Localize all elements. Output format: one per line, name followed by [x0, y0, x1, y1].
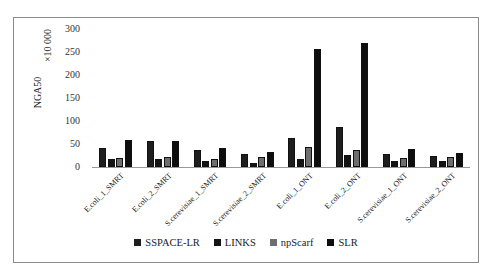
bar-sspace-lr-e-coli-1-smrt	[99, 148, 106, 167]
bar-npscarf-s-cerevisiae-2-smrt	[258, 157, 265, 167]
bar-slr-s-cerevisiae-2-smrt	[267, 152, 274, 167]
bar-slr-s-cerevisiae-2-ont	[456, 153, 463, 167]
bar-npscarf-s-cerevisiae-1-ont	[400, 158, 407, 167]
legend-item-npscarf: npScarf	[270, 237, 314, 248]
bar-npscarf-e-coli-2-smrt	[164, 157, 171, 167]
bar-sspace-lr-e-coli-2-ont	[336, 127, 343, 167]
y-tick-label: 0	[50, 162, 80, 172]
bar-links-s-cerevisiae-1-smrt	[202, 161, 209, 167]
y-axis-label: NGA50	[32, 77, 43, 109]
x-axis-line	[92, 167, 470, 168]
legend-swatch-icon	[134, 239, 141, 246]
bar-links-e-coli-1-ont	[297, 159, 304, 167]
y-tick-label: 250	[50, 47, 80, 57]
y-tick-label: 150	[50, 93, 80, 103]
y-axis-unit: ×10 000	[42, 29, 53, 62]
bar-slr-e-coli-1-ont	[314, 49, 321, 167]
y-tick-label: 50	[50, 139, 80, 149]
legend-label: npScarf	[281, 237, 314, 248]
bar-npscarf-e-coli-2-ont	[353, 150, 360, 167]
y-tick-label: 200	[50, 70, 80, 80]
bar-links-s-cerevisiae-2-ont	[439, 161, 446, 167]
legend-label: SLR	[338, 237, 357, 248]
bar-slr-e-coli-1-smrt	[125, 140, 132, 167]
bar-slr-s-cerevisiae-1-smrt	[219, 148, 226, 167]
bar-sspace-lr-s-cerevisiae-2-smrt	[241, 154, 248, 167]
legend-label: LINKS	[225, 237, 256, 248]
bar-npscarf-s-cerevisiae-1-smrt	[211, 159, 218, 167]
bar-sspace-lr-s-cerevisiae-1-smrt	[194, 150, 201, 167]
legend: SSPACE-LRLINKSnpScarfSLR	[0, 237, 492, 248]
bar-links-e-coli-2-smrt	[155, 159, 162, 167]
bar-sspace-lr-e-coli-1-ont	[288, 138, 295, 167]
legend-item-slr: SLR	[327, 237, 357, 248]
y-tick-label: 300	[50, 24, 80, 34]
legend-item-links: LINKS	[214, 237, 256, 248]
bar-links-s-cerevisiae-2-smrt	[250, 163, 257, 167]
legend-label: SSPACE-LR	[145, 237, 199, 248]
bar-sspace-lr-s-cerevisiae-1-ont	[383, 154, 390, 167]
bar-npscarf-e-coli-1-smrt	[116, 158, 123, 167]
legend-swatch-icon	[270, 239, 277, 246]
bar-links-e-coli-2-ont	[344, 155, 351, 167]
bar-npscarf-s-cerevisiae-2-ont	[447, 157, 454, 167]
legend-swatch-icon	[327, 239, 334, 246]
bar-npscarf-e-coli-1-ont	[305, 147, 312, 167]
legend-swatch-icon	[214, 239, 221, 246]
bar-links-e-coli-1-smrt	[108, 159, 115, 167]
y-tick-label: 100	[50, 116, 80, 126]
legend-item-sspace-lr: SSPACE-LR	[134, 237, 199, 248]
bar-sspace-lr-e-coli-2-smrt	[147, 141, 154, 167]
chart-frame	[13, 17, 479, 263]
bar-sspace-lr-s-cerevisiae-2-ont	[430, 156, 437, 168]
bar-slr-s-cerevisiae-1-ont	[408, 149, 415, 167]
bar-links-s-cerevisiae-1-ont	[391, 161, 398, 167]
bar-slr-e-coli-2-smrt	[172, 141, 179, 167]
bar-slr-e-coli-2-ont	[361, 43, 368, 167]
